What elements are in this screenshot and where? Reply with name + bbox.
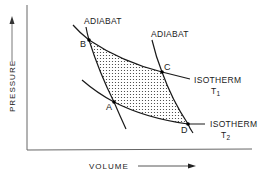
isotherm-lower-temp-subscript: 2 <box>227 134 231 141</box>
adiabat-right-label: ADIABAT <box>151 29 189 39</box>
y-axis-arrowhead-icon <box>10 16 15 24</box>
isotherm-upper-temp: T1 <box>211 86 221 97</box>
point-a-label: A <box>106 102 112 112</box>
x-axis-label: VOLUME <box>89 162 129 171</box>
point-b-marker <box>87 38 91 42</box>
point-b-label: B <box>80 39 86 49</box>
point-d-label: D <box>181 125 188 135</box>
isotherm-upper-label: ISOTHERM <box>194 75 241 85</box>
isotherm-lower-temp: T2 <box>221 130 231 141</box>
x-axis <box>27 149 252 150</box>
adiabat-left-label: ADIABAT <box>84 16 122 26</box>
point-a-marker <box>112 100 116 104</box>
x-axis-arrowhead-icon <box>188 164 196 169</box>
point-c-label: C <box>164 62 171 72</box>
y-axis-label: PRESSURE <box>8 60 17 112</box>
isotherm-upper-temp-subscript: 1 <box>217 90 221 97</box>
pv-diagram: B C A D ADIABAT ADIABAT ISOTHERM T1 ISOT… <box>0 0 265 177</box>
isotherm-lower-label: ISOTHERM <box>210 119 257 129</box>
cycle-shaded-region <box>89 40 188 124</box>
